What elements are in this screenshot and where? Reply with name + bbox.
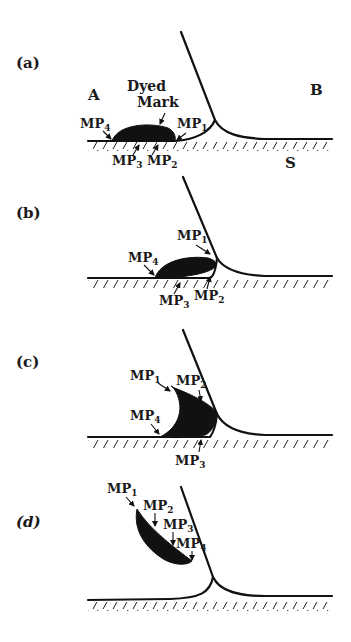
dyed-mark-drop	[112, 125, 175, 141]
panel-label-b: (b)	[16, 204, 41, 222]
dyed-label: Dyed	[127, 78, 166, 94]
mp3-d: MP3	[163, 517, 193, 534]
mark-arrow	[160, 113, 165, 124]
mp3-a: MP3	[112, 153, 142, 170]
mp2-d: MP2	[143, 498, 173, 515]
phase-b-label: B	[310, 81, 323, 99]
panel-label-a: (a)	[16, 54, 40, 72]
panel-c: (c) MP1 MP2 MP4 MP3	[16, 330, 332, 470]
substrate-hatch	[88, 279, 332, 288]
mp4-d: MP4	[176, 536, 206, 553]
substrate-hatch	[88, 439, 332, 448]
mp1-b: MP1	[177, 228, 207, 245]
mp1-c: MP1	[130, 368, 160, 385]
mp4-c: MP4	[130, 408, 160, 425]
interface-right	[215, 120, 332, 139]
panel-d: (d) MP1 MP2 MP3 MP4	[16, 481, 332, 611]
panel-a: (a) A B S Dyed Mark MP4 MP1 MP3 MP2	[16, 32, 332, 172]
substrate-hatch	[88, 602, 332, 611]
substrate-label: S	[285, 154, 296, 172]
mp1-d: MP1	[107, 481, 137, 498]
dyed-mark-drop	[155, 257, 216, 278]
mark-label: Mark	[137, 94, 179, 110]
panel-label-c: (c)	[16, 353, 39, 371]
panel-b: (b) MP1 MP4 MP3 MP2	[16, 177, 332, 310]
mp3-b: MP3	[159, 293, 189, 310]
dyed-mark-diagram: (a) A B S Dyed Mark MP4 MP1 MP3 MP2 (b) …	[0, 0, 351, 642]
interface-right	[213, 577, 332, 596]
mp3-c: MP3	[175, 453, 205, 470]
mp4-b: MP4	[128, 250, 158, 267]
interface-right	[217, 258, 332, 276]
mp1-a: MP1	[177, 116, 207, 133]
interface-right	[217, 414, 332, 435]
mp4-a: MP4	[80, 116, 110, 133]
mp2-b: MP2	[194, 288, 224, 305]
substrate-hatch	[88, 142, 332, 151]
mp2-a: MP2	[147, 153, 177, 170]
panel-label-d: (d)	[16, 513, 41, 531]
phase-a-label: A	[87, 86, 100, 104]
